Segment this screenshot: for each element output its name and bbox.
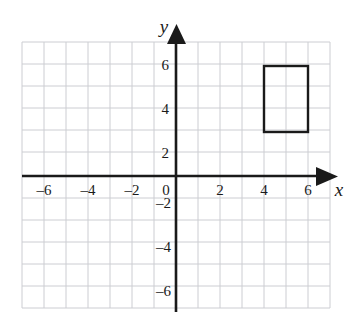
coordinate-plane-svg: –6 –4 –2 0 2 4 6 6 4 2 –2 –4 –6 x y xyxy=(0,0,355,326)
x-tick-label: –6 xyxy=(36,182,53,198)
y-tick-label: 2 xyxy=(162,145,170,161)
y-tick-labels: 6 4 2 –2 –4 –6 xyxy=(155,57,172,299)
x-tick-label: 2 xyxy=(216,182,224,198)
x-tick-label: –2 xyxy=(124,182,140,198)
y-tick-label: –4 xyxy=(155,239,172,255)
y-tick-label: –6 xyxy=(155,283,172,299)
coordinate-plane-figure: –6 –4 –2 0 2 4 6 6 4 2 –2 –4 –6 x y xyxy=(0,0,355,326)
y-axis-up-arrow-icon xyxy=(167,24,186,44)
x-axis-label: x xyxy=(334,179,344,200)
y-tick-label: 4 xyxy=(162,101,170,117)
x-tick-label: 4 xyxy=(260,182,268,198)
x-tick-label: 6 xyxy=(304,182,312,198)
axis-lines xyxy=(22,36,322,312)
x-tick-label: –4 xyxy=(80,182,97,198)
x-tick-labels: –6 –4 –2 0 2 4 6 xyxy=(36,182,313,198)
y-tick-label: –2 xyxy=(155,195,171,211)
y-tick-label: 6 xyxy=(162,57,170,73)
y-axis-label: y xyxy=(158,16,169,37)
